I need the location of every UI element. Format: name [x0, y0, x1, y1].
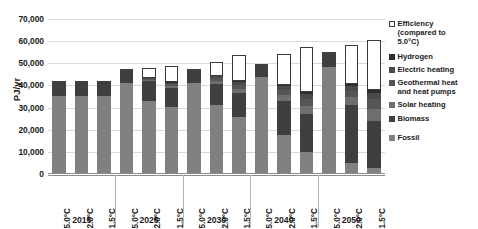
- legend-label: Fossil: [398, 133, 420, 142]
- legend-label: Hydrogen: [398, 52, 433, 61]
- x-axis-group-label: 2050: [318, 215, 385, 225]
- legend-swatch-icon: [389, 102, 395, 108]
- bar-2040-2-0-c[interactable]: [277, 54, 291, 174]
- legend-item-electric-heating[interactable]: Electric heating: [389, 65, 478, 74]
- bar-2030-1-5-c[interactable]: [232, 55, 246, 174]
- legend-label: Efficiency (compared to 5.0°C): [398, 19, 446, 46]
- x-axis-group-separator: [318, 175, 319, 227]
- bar-segment-biomass: [255, 64, 269, 77]
- bar-2050-1-5-c[interactable]: [367, 40, 381, 174]
- x-axis-baseline: [48, 173, 385, 174]
- bar-segment-biomass: [300, 114, 314, 152]
- y-axis-tick-label: 0: [0, 169, 44, 179]
- legend-swatch-icon: [389, 67, 395, 73]
- bar-2050-2-0-c[interactable]: [345, 45, 359, 174]
- bar-segment-efficiency-compared-to-5-0-c-: [367, 40, 381, 90]
- bar-segment-efficiency-compared-to-5-0-c-: [165, 66, 179, 82]
- bar-segment-fossil: [142, 101, 156, 175]
- bar-segment-biomass: [345, 105, 359, 163]
- bar-segment-solar-heating: [345, 97, 359, 104]
- bar-segment-biomass: [187, 69, 201, 83]
- bar-segment-fossil: [120, 83, 134, 174]
- y-axis-tick-label: 40,000: [0, 80, 44, 90]
- bar-segment-fossil: [210, 105, 224, 174]
- x-axis-group-label: 2040: [250, 215, 317, 225]
- bar-segment-electric-heating: [367, 93, 381, 100]
- bar-segment-biomass: [75, 81, 89, 96]
- x-axis-group-label: 2015: [48, 215, 115, 225]
- bar-segment-biomass: [120, 69, 134, 83]
- bar-segment-geothermal-heat-and-heat-pumps: [300, 99, 314, 106]
- y-axis-tick-label: 20,000: [0, 125, 44, 135]
- bar-segment-efficiency-compared-to-5-0-c-: [232, 55, 246, 81]
- y-axis-tick-labels: 010,00020,00030,00040,00050,00060,00070,…: [0, 0, 46, 229]
- legend-swatch-icon: [389, 116, 395, 122]
- legend-swatch-icon: [389, 21, 395, 27]
- legend-swatch-icon: [389, 54, 395, 60]
- x-axis-rule: [48, 175, 385, 176]
- y-axis-tick-label: 60,000: [0, 36, 44, 46]
- bar-segment-biomass: [210, 84, 224, 105]
- legend-item-hydrogen[interactable]: Hydrogen: [389, 52, 478, 61]
- legend-item-solar-heating[interactable]: Solar heating: [389, 100, 478, 109]
- y-axis-tick-label: 70,000: [0, 14, 44, 24]
- legend-item-efficiency[interactable]: Efficiency (compared to 5.0°C): [389, 19, 478, 46]
- legend-label: Electric heating: [398, 65, 455, 74]
- stacked-bar-chart: PJ/yr 010,00020,00030,00040,00050,00060,…: [0, 0, 478, 229]
- legend-label: Biomass: [398, 114, 430, 123]
- bar-segment-efficiency-compared-to-5-0-c-: [345, 45, 359, 84]
- y-axis-tick-label: 50,000: [0, 58, 44, 68]
- bar-segment-fossil: [52, 96, 66, 174]
- bar-segment-efficiency-compared-to-5-0-c-: [277, 54, 291, 85]
- legend-item-fossil[interactable]: Fossil: [389, 133, 478, 142]
- bar-segment-biomass: [165, 88, 179, 107]
- bar-2025-2-0-c[interactable]: [142, 68, 156, 174]
- x-axis-group-separator: [183, 175, 184, 227]
- bar-segment-fossil: [277, 135, 291, 174]
- bars-layer: [48, 19, 385, 174]
- bar-segment-biomass: [142, 81, 156, 100]
- bar-segment-biomass: [367, 121, 381, 169]
- bar-2040-1-5-c[interactable]: [300, 47, 314, 174]
- bar-2030-5-0-c[interactable]: [187, 69, 201, 174]
- x-axis-group-label: 2025: [115, 215, 182, 225]
- bar-2050-5-0-c[interactable]: [322, 52, 336, 174]
- bar-2015-2-0-c[interactable]: [75, 81, 89, 174]
- x-axis-group-separator: [115, 175, 116, 227]
- x-axis-group-label: 2030: [183, 215, 250, 225]
- bar-segment-biomass: [97, 81, 111, 96]
- bar-2015-5-0-c[interactable]: [52, 81, 66, 174]
- bar-segment-biomass: [52, 81, 66, 96]
- legend-label: Geothermal heat and heat pumps: [398, 78, 458, 96]
- bar-segment-biomass: [232, 93, 246, 116]
- bar-segment-geothermal-heat-and-heat-pumps: [345, 91, 359, 98]
- bar-segment-fossil: [75, 96, 89, 174]
- legend-swatch-icon: [389, 135, 395, 141]
- bar-segment-fossil: [97, 96, 111, 174]
- bar-segment-solar-heating: [300, 106, 314, 114]
- bar-segment-geothermal-heat-and-heat-pumps: [367, 99, 381, 109]
- plot-area: [48, 19, 385, 174]
- x-axis-group-separator: [250, 175, 251, 227]
- legend-swatch-icon: [389, 80, 395, 86]
- bar-2030-2-0-c[interactable]: [210, 62, 224, 174]
- bar-segment-fossil: [165, 107, 179, 174]
- y-axis-tick-label: 30,000: [0, 103, 44, 113]
- bar-2015-1-5-c[interactable]: [97, 81, 111, 174]
- bar-segment-solar-heating: [367, 109, 381, 121]
- chart-legend: Efficiency (compared to 5.0°C)HydrogenEl…: [389, 19, 478, 179]
- bar-segment-efficiency-compared-to-5-0-c-: [300, 47, 314, 92]
- bar-2025-5-0-c[interactable]: [120, 69, 134, 174]
- legend-item-biomass[interactable]: Biomass: [389, 114, 478, 123]
- bar-segment-biomass: [322, 52, 336, 67]
- bar-segment-fossil: [300, 152, 314, 174]
- bar-segment-biomass: [277, 101, 291, 135]
- bar-2040-5-0-c[interactable]: [255, 64, 269, 174]
- x-axis: 5.0°C2.0°C1.5°C20155.0°C2.0°C1.5°C20255.…: [48, 175, 385, 229]
- bar-segment-efficiency-compared-to-5-0-c-: [210, 62, 224, 75]
- legend-item-geothermal-heat[interactable]: Geothermal heat and heat pumps: [389, 78, 478, 96]
- y-axis-tick-label: 10,000: [0, 147, 44, 157]
- bar-segment-fossil: [322, 67, 336, 174]
- bar-2025-1-5-c[interactable]: [165, 66, 179, 174]
- bar-segment-fossil: [255, 77, 269, 174]
